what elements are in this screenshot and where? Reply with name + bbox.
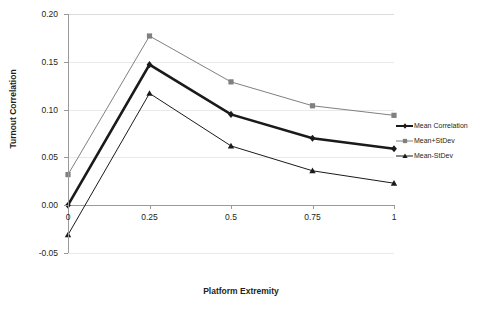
legend-label: Mean Correlation [414, 121, 468, 130]
legend-key-diamond-icon [396, 120, 413, 131]
y-axis-tick [64, 14, 68, 15]
legend-item: Mean Correlation [396, 118, 482, 133]
legend-label: Mean-StDev [414, 151, 453, 160]
legend-key-triangle-icon [396, 150, 413, 161]
legend-label: Mean+StDev [414, 136, 455, 145]
gridline [68, 253, 394, 254]
data-point-marker [310, 135, 316, 142]
series-line [68, 65, 394, 206]
y-axis-tick [64, 253, 68, 254]
data-point-marker [228, 143, 234, 149]
data-point-marker [228, 79, 233, 84]
x-axis-tick-label: 0 [66, 212, 71, 222]
y-axis-tick [64, 205, 68, 206]
y-axis-tick-label: -0.05 [0, 248, 58, 258]
series-line [68, 36, 394, 175]
x-axis-tick [313, 205, 314, 209]
x-axis-tick-label: 0.5 [225, 212, 237, 222]
legend-marker-icon [399, 135, 410, 146]
data-point-marker [146, 90, 152, 96]
y-axis-tick-label: 0.20 [0, 9, 58, 19]
x-axis-tick [394, 205, 395, 209]
x-axis-tick [68, 205, 69, 209]
y-axis-tick-label: 0.00 [0, 200, 58, 210]
data-point-marker [147, 33, 152, 38]
legend-item: Mean+StDev [396, 133, 482, 148]
data-point-marker [310, 103, 315, 108]
legend-marker-icon [399, 150, 410, 161]
legend-item: Mean-StDev [396, 148, 482, 163]
x-axis-tick-label: 0.75 [304, 212, 321, 222]
y-axis-tick [64, 157, 68, 158]
data-point-marker [402, 153, 407, 158]
x-axis-tick [150, 205, 151, 209]
data-point-marker [402, 138, 406, 142]
legend-marker-icon [399, 120, 410, 131]
x-axis-tick [231, 205, 232, 209]
x-axis-tick-label: 0.25 [141, 212, 158, 222]
x-axis-tick-label: 1 [392, 212, 397, 222]
data-point-marker [402, 123, 407, 129]
y-axis-tick [64, 62, 68, 63]
y-axis-tick [64, 110, 68, 111]
x-axis-title: Platform Extremity [0, 286, 482, 296]
legend-key-square-icon [396, 135, 413, 146]
chart-container: 0.200.150.100.050.00-0.05 00.250.50.751 … [0, 0, 482, 312]
y-axis-title: Turnout Correlation [8, 54, 18, 164]
legend: Mean CorrelationMean+StDevMean-StDev [396, 118, 482, 163]
series-mean-stdev [65, 33, 396, 177]
